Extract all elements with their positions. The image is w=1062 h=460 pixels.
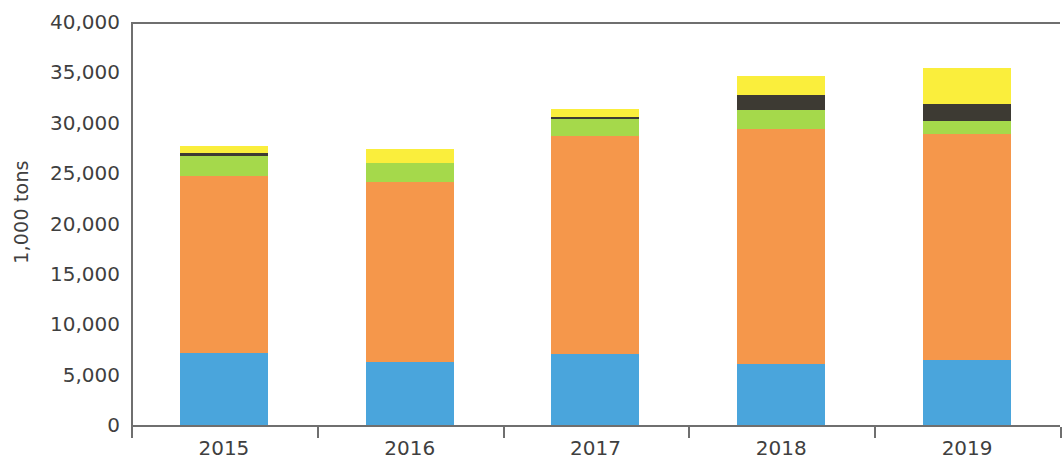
y-axis-tick-label: 30,000 [50,113,120,133]
y-axis-title-text: 1,000 tons [10,160,32,263]
x-axis-ticks [131,0,1060,460]
x-axis-label: 2015 [198,436,249,460]
x-axis-label: 2016 [384,436,435,460]
x-axis-labels: 20152016201720182019 [131,436,1060,460]
y-axis-tick-label: 0 [107,415,120,435]
y-axis-tick-label: 20,000 [50,214,120,234]
y-axis-tick-label: 15,000 [50,264,120,284]
x-axis-label: 2017 [570,436,621,460]
y-axis-tick-label: 40,000 [50,12,120,32]
x-axis-label: 2018 [756,436,807,460]
y-axis-tick-label: 25,000 [50,163,120,183]
y-axis-tick-label: 35,000 [50,62,120,82]
y-axis-tick-label: 5,000 [63,365,120,385]
y-axis-tick-labels: 05,00010,00015,00020,00025,00030,00035,0… [30,0,126,460]
x-axis-label: 2019 [942,436,993,460]
y-axis-tick-label: 10,000 [50,314,120,334]
